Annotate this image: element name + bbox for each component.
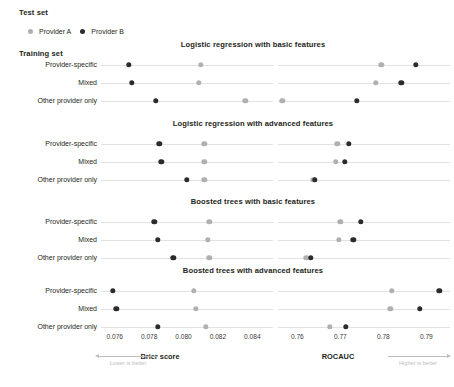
- data-point-a[interactable]: [201, 177, 206, 182]
- data-point-a[interactable]: [389, 288, 394, 293]
- data-point-b[interactable]: [308, 255, 313, 260]
- data-point-b[interactable]: [153, 98, 158, 103]
- data-point-b[interactable]: [413, 62, 418, 67]
- gridline: [101, 83, 273, 84]
- segment-rocauc: [278, 92, 450, 110]
- data-point-a[interactable]: [198, 62, 203, 67]
- data-point-a[interactable]: [193, 306, 198, 311]
- legend-label: Provider B: [91, 28, 124, 35]
- gridline: [101, 240, 273, 241]
- data-point-b[interactable]: [399, 80, 404, 85]
- axis-tick: 0.078: [141, 333, 158, 340]
- legend-item-a[interactable]: Provider A: [28, 28, 71, 35]
- data-point-b[interactable]: [114, 306, 119, 311]
- data-point-a[interactable]: [196, 80, 201, 85]
- gridline: [101, 162, 273, 163]
- data-point-b[interactable]: [342, 159, 347, 164]
- test-set-heading: Test set: [19, 8, 48, 17]
- data-point-a[interactable]: [333, 159, 338, 164]
- row-label: Other provider only: [0, 92, 97, 110]
- axis-tick: 0.076: [106, 333, 123, 340]
- data-point-b[interactable]: [184, 177, 189, 182]
- data-point-a[interactable]: [336, 237, 341, 242]
- data-point-a[interactable]: [378, 62, 383, 67]
- row-label: Other provider only: [0, 171, 97, 189]
- data-point-a[interactable]: [338, 219, 343, 224]
- data-point-b[interactable]: [158, 159, 163, 164]
- segment-rocauc: [278, 300, 450, 318]
- segment-rocauc: [278, 282, 450, 300]
- rocauc-axis-label: ROCAUC: [322, 352, 354, 361]
- gridline: [101, 144, 273, 145]
- data-point-a[interactable]: [280, 98, 285, 103]
- gridline: [278, 162, 450, 163]
- segment-brier: [101, 56, 273, 74]
- segment-brier: [101, 74, 273, 92]
- data-point-a[interactable]: [388, 306, 393, 311]
- data-point-b[interactable]: [351, 237, 356, 242]
- data-point-b[interactable]: [312, 177, 317, 182]
- data-point-b[interactable]: [358, 219, 363, 224]
- panel-title: Boosted trees with basic features: [0, 197, 454, 206]
- data-point-b[interactable]: [171, 255, 176, 260]
- segment-rocauc: [278, 231, 450, 249]
- data-point-b[interactable]: [437, 288, 442, 293]
- data-point-a[interactable]: [203, 324, 208, 329]
- brier-tick-row: 0.0760.0780.0800.0820.084: [101, 333, 273, 345]
- chart-row: Provider-specific: [0, 135, 454, 153]
- data-point-b[interactable]: [346, 141, 351, 146]
- data-point-a[interactable]: [201, 141, 206, 146]
- gridline: [278, 65, 450, 66]
- legend-label: Provider A: [39, 28, 71, 35]
- higher-is-better-annotation: Higher is better: [385, 353, 451, 366]
- chart-row: Mixed: [0, 231, 454, 249]
- data-point-a[interactable]: [207, 255, 212, 260]
- data-point-b[interactable]: [155, 324, 160, 329]
- data-point-b[interactable]: [155, 237, 160, 242]
- segment-brier: [101, 153, 273, 171]
- panel-title: Logistic regression with basic features: [0, 40, 454, 49]
- chart-row: Other provider only: [0, 92, 454, 110]
- segment-brier: [101, 282, 273, 300]
- data-point-a[interactable]: [191, 288, 196, 293]
- segment-rocauc: [278, 56, 450, 74]
- gridline: [278, 309, 450, 310]
- data-point-a[interactable]: [205, 237, 210, 242]
- row-label: Provider-specific: [0, 213, 97, 231]
- row-label: Mixed: [0, 74, 97, 92]
- legend-item-b[interactable]: Provider B: [80, 28, 124, 35]
- data-point-b[interactable]: [129, 80, 134, 85]
- data-point-a[interactable]: [335, 141, 340, 146]
- legend: Provider AProvider B: [28, 28, 124, 35]
- segment-brier: [101, 249, 273, 267]
- data-point-b[interactable]: [110, 288, 115, 293]
- data-point-a[interactable]: [201, 159, 206, 164]
- gridline: [101, 258, 273, 259]
- row-label: Mixed: [0, 231, 97, 249]
- data-point-b[interactable]: [354, 98, 359, 103]
- segment-brier: [101, 135, 273, 153]
- panel-boosted-advanced: Boosted trees with advanced featuresProv…: [0, 266, 454, 338]
- data-point-b[interactable]: [343, 324, 348, 329]
- segment-brier: [101, 213, 273, 231]
- data-point-b[interactable]: [157, 141, 162, 146]
- axis-tick: 0.082: [210, 333, 227, 340]
- chart-root: Test set Provider AProvider B Training s…: [0, 0, 454, 387]
- data-point-b[interactable]: [152, 219, 157, 224]
- axis-tick: 0.76: [291, 333, 304, 340]
- gridline: [278, 222, 450, 223]
- data-point-a[interactable]: [373, 80, 378, 85]
- panel-logistic-advanced: Logistic regression with advanced featur…: [0, 119, 454, 191]
- legend-swatch-a-icon: [28, 29, 33, 34]
- data-point-b[interactable]: [126, 62, 131, 67]
- data-point-a[interactable]: [207, 219, 212, 224]
- gridline: [101, 327, 273, 328]
- segment-brier: [101, 231, 273, 249]
- gridline: [278, 144, 450, 145]
- segment-brier: [101, 171, 273, 189]
- data-point-a[interactable]: [243, 98, 248, 103]
- data-point-a[interactable]: [327, 324, 332, 329]
- gridline: [101, 222, 273, 223]
- data-point-b[interactable]: [417, 306, 422, 311]
- gridline: [278, 180, 450, 181]
